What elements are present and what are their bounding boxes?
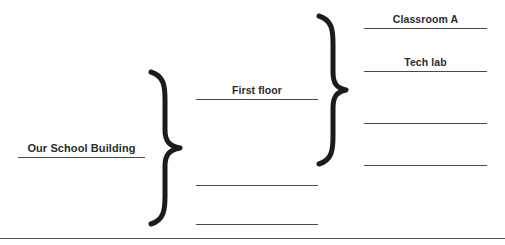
node-level3-4[interactable] xyxy=(364,142,487,166)
node-level3-1-label: Classroom A xyxy=(364,13,487,25)
node-level3-4-rule xyxy=(364,165,487,166)
node-level2-1-rule xyxy=(196,99,318,100)
node-level3-1[interactable]: Classroom A xyxy=(364,5,487,29)
root-brace xyxy=(150,70,182,226)
node-level3-2-label: Tech lab xyxy=(364,56,487,68)
node-level2-1-label: First floor xyxy=(196,84,318,96)
node-level2-2[interactable] xyxy=(196,162,318,186)
node-level2-2-rule xyxy=(196,185,318,186)
node-level3-1-rule xyxy=(364,28,487,29)
first-floor-brace xyxy=(318,14,348,166)
node-level3-2[interactable]: Tech lab xyxy=(364,48,487,72)
node-root[interactable]: Our School Building xyxy=(18,134,145,158)
node-root-label: Our School Building xyxy=(18,142,145,154)
page-divider xyxy=(0,238,505,239)
node-root-rule xyxy=(18,157,145,158)
diagram-canvas: Our School Building First floor Classroo… xyxy=(0,0,505,245)
node-level3-3[interactable] xyxy=(364,100,487,124)
node-level3-3-rule xyxy=(364,123,487,124)
node-level3-2-rule xyxy=(364,71,487,72)
node-level2-3[interactable] xyxy=(196,201,318,225)
node-level2-3-rule xyxy=(196,224,318,225)
node-level2-1[interactable]: First floor xyxy=(196,76,318,100)
